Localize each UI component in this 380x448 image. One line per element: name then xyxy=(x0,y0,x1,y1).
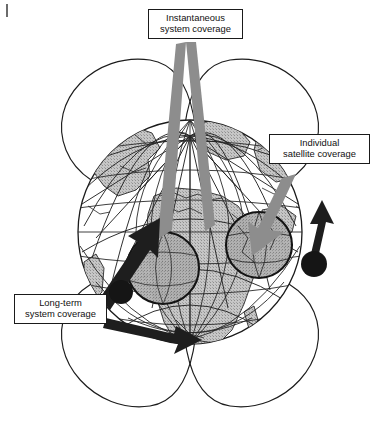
callout-individual-line2: satellite coverage xyxy=(274,148,365,159)
callout-instantaneous-line2: system coverage xyxy=(153,23,238,34)
callout-instantaneous-system-coverage[interactable]: Instantaneous system coverage xyxy=(148,9,243,39)
satellite-left xyxy=(109,280,133,304)
satellite-right xyxy=(301,251,327,277)
callout-individual-line1: Individual xyxy=(274,137,365,148)
callout-instantaneous-line1: Instantaneous xyxy=(153,12,238,23)
callout-longterm-line1: Long-term xyxy=(19,297,102,308)
callout-individual-satellite-coverage[interactable]: Individual satellite coverage xyxy=(269,134,370,164)
satellite-coverage-figure: Instantaneous system coverage Individual… xyxy=(0,0,380,448)
page-edge-artifact xyxy=(6,4,8,17)
callout-long-term-system-coverage[interactable]: Long-term system coverage xyxy=(14,294,107,324)
arrow-satellite-right xyxy=(310,200,334,258)
callout-longterm-line2: system coverage xyxy=(19,308,102,319)
diagram-canvas xyxy=(0,0,380,448)
satellite-right-arrow xyxy=(310,200,334,258)
